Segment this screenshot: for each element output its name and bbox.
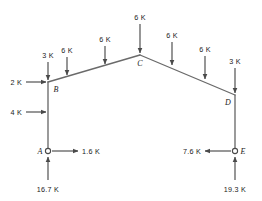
label-load-cd-1: 6 K	[166, 31, 178, 40]
joint-labels: A B C D E	[37, 59, 246, 156]
label-load-bc-1: 6 K	[61, 46, 73, 55]
joint-label-b: B	[54, 85, 59, 94]
joint-label-a: A	[37, 147, 43, 156]
label-load-c-apex: 6 K	[134, 13, 146, 22]
figure-canvas: 3 K 6 K 6 K 6 K 6 K 6 K 3 K 2 K 4 K 1.6 …	[0, 0, 262, 201]
support-pin-a	[45, 148, 50, 153]
load-labels: 3 K 6 K 6 K 6 K 6 K 6 K 3 K 2 K 4 K 1.6 …	[10, 13, 246, 194]
joint-label-d: D	[224, 98, 231, 107]
label-reaction-e-horiz: 7.6 K	[183, 147, 201, 156]
label-reaction-e-vert: 19.3 K	[224, 185, 246, 194]
label-reaction-a-vert: 16.7 K	[37, 185, 59, 194]
frame-diagram: 3 K 6 K 6 K 6 K 6 K 6 K 3 K 2 K 4 K 1.6 …	[0, 0, 262, 201]
joint-label-e: E	[240, 147, 246, 156]
label-reaction-a-horiz: 1.6 K	[82, 147, 100, 156]
label-load-cd-2: 6 K	[199, 45, 211, 54]
label-load-b-lateral: 2 K	[10, 78, 22, 87]
member-rafter-CD	[140, 55, 235, 95]
joint-label-c: C	[137, 59, 143, 68]
label-load-ab-lateral: 4 K	[10, 108, 22, 117]
support-pin-e	[232, 148, 237, 153]
member-rafter-BC	[48, 55, 140, 82]
structure-members	[48, 55, 235, 151]
label-load-bc-2: 6 K	[99, 35, 111, 44]
label-load-b-vertical: 3 K	[42, 51, 54, 60]
label-load-d-vertical: 3 K	[229, 57, 241, 66]
